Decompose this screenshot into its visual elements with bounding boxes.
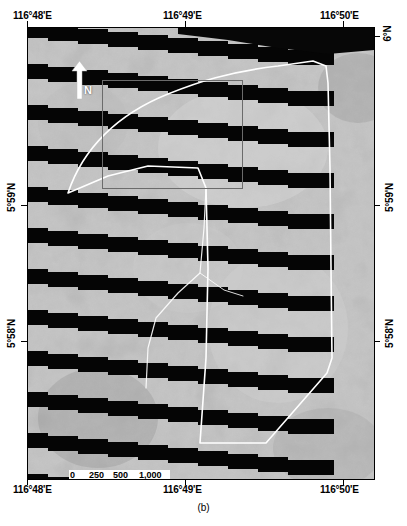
scale-tick-500: 500 bbox=[113, 470, 128, 480]
bottom-axis-label-1: 116°48'E bbox=[13, 484, 52, 495]
left-axis-label-1: 5°59'N bbox=[6, 175, 17, 221]
scale-bar-numbers: 0 250 500 1,000 bbox=[69, 470, 170, 480]
north-arrow-label: N bbox=[84, 84, 92, 96]
figure-caption: (b) bbox=[0, 502, 407, 513]
map-frame[interactable]: N 0 250 500 1,000 Meters bbox=[27, 27, 375, 480]
scale-tick-250: 250 bbox=[89, 470, 104, 480]
bottom-axis-label-3: 116°50'E bbox=[320, 484, 359, 495]
right-axis-label-1: 6°N bbox=[382, 16, 393, 52]
top-axis-label-2: 116°49'E bbox=[163, 10, 202, 21]
scale-tick-0: 0 bbox=[70, 470, 75, 480]
right-axis-label-2: 5°59'N bbox=[384, 175, 395, 221]
top-axis-label-3: 116°50'E bbox=[320, 10, 359, 21]
north-arrow-glyph bbox=[66, 59, 96, 103]
inset-extent-rectangle[interactable] bbox=[102, 80, 243, 189]
scale-tick-1000: 1,000 bbox=[139, 470, 162, 480]
right-axis-label-3: 5°58'N bbox=[384, 311, 395, 357]
figure-panel-b: 116°48'E 116°49'E 116°50'E 116°48'E 116°… bbox=[0, 0, 407, 526]
bottom-axis-label-2: 116°49'E bbox=[163, 484, 202, 495]
left-axis-label-2: 5°58'N bbox=[6, 311, 17, 357]
north-arrow-icon: N bbox=[66, 59, 96, 103]
scale-bar: 0 250 500 1,000 Meters bbox=[69, 470, 170, 480]
top-axis-label-1: 116°48'E bbox=[13, 10, 52, 21]
